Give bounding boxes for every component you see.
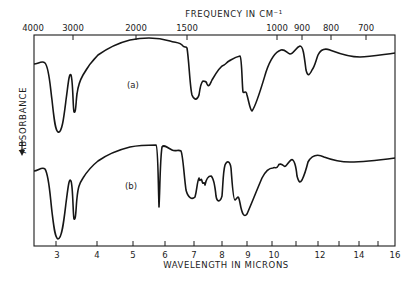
y-axis-title: ABSORBANCE xyxy=(18,87,28,154)
spectrum-curve-b xyxy=(34,145,395,239)
curve-label-a: (a) xyxy=(127,80,139,90)
wave-tick-label: 12 xyxy=(315,250,326,260)
wave-tick-label: 14 xyxy=(354,250,365,260)
bottom-axis-title: WAVELENGTH IN MICRONS xyxy=(163,260,289,270)
y-axis-title-group: ABSORBANCE xyxy=(18,87,28,156)
freq-tick-label: 4000 xyxy=(22,23,44,33)
wave-tick-label: 4 xyxy=(94,250,99,260)
bottom-ticks xyxy=(56,241,378,246)
freq-tick-label: 1500 xyxy=(176,23,198,33)
freq-tick-label: 700 xyxy=(358,23,374,33)
wave-tick-label: 7 xyxy=(191,250,196,260)
freq-tick-label: 1000 xyxy=(266,23,288,33)
top-axis-title: FREQUENCY IN CM⁻¹ xyxy=(185,9,282,19)
wave-tick-label: 8 xyxy=(219,250,224,260)
freq-tick-label: 800 xyxy=(323,23,339,33)
wave-tick-label: 10 xyxy=(269,250,280,260)
freq-tick-label: 3000 xyxy=(62,23,84,33)
wave-tick-label: 16 xyxy=(390,250,401,260)
wave-tick-label: 9 xyxy=(245,250,250,260)
freq-tick-label: 900 xyxy=(294,23,310,33)
top-ticks xyxy=(73,35,366,40)
frequency-tick-labels: 4000 3000 2000 1500 1000 900 800 700 xyxy=(22,23,374,33)
wavelength-tick-labels: 3 4 5 6 7 8 9 10 12 14 16 xyxy=(54,250,400,260)
wave-tick-label: 3 xyxy=(54,250,59,260)
curve-label-b: (b) xyxy=(125,181,137,191)
ir-spectrum-chart: FREQUENCY IN CM⁻¹ 4000 3000 2000 1500 10… xyxy=(0,0,419,282)
wave-tick-label: 5 xyxy=(130,250,135,260)
freq-tick-label: 2000 xyxy=(125,23,147,33)
wave-tick-label: 6 xyxy=(162,250,167,260)
spectrum-curve-a xyxy=(34,38,395,132)
